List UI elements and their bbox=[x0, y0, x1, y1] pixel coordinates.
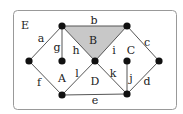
edge-label-b: b bbox=[90, 14, 97, 27]
edge-label-c: c bbox=[144, 36, 150, 49]
edge-label-h: h bbox=[72, 44, 79, 57]
edge-label-j: j bbox=[127, 72, 132, 85]
face-label-D: D bbox=[91, 75, 100, 88]
vertex-v5 bbox=[91, 57, 98, 64]
vertex-v4 bbox=[58, 57, 65, 64]
vertex-v9 bbox=[123, 90, 130, 97]
vertex-v3 bbox=[25, 57, 32, 64]
edge-label-d: d bbox=[143, 75, 150, 88]
face-label-E: E bbox=[21, 19, 29, 32]
face-label-C: C bbox=[127, 44, 135, 57]
edge-label-e: e bbox=[92, 94, 99, 107]
vertex-v2 bbox=[123, 22, 130, 29]
face-label-B: B bbox=[89, 34, 97, 47]
vertex-v8 bbox=[58, 91, 65, 98]
edge-label-g: g bbox=[53, 41, 60, 54]
edge-label-l: l bbox=[75, 67, 79, 80]
vertex-v7 bbox=[155, 57, 162, 64]
edge-label-k: k bbox=[110, 67, 117, 80]
edge-label-a: a bbox=[38, 32, 45, 45]
graph-diagram: abcdefghijkl EBCAD bbox=[0, 0, 183, 114]
face-label-A: A bbox=[57, 72, 67, 85]
edge-label-i: i bbox=[112, 44, 116, 57]
vertex-v1 bbox=[58, 22, 65, 29]
vertex-v6 bbox=[123, 57, 130, 64]
edge-label-f: f bbox=[37, 76, 42, 89]
